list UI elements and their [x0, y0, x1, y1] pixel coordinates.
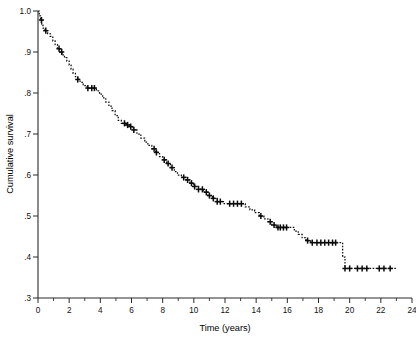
y-tick-label: .8 [24, 89, 31, 98]
censoring-marks [39, 17, 393, 272]
y-tick-label: .9 [24, 48, 31, 57]
y-axis-group: 1.0.9.8.7.6.5.4.3 Cumulative survival [5, 7, 38, 303]
y-axis-title: Cumulative survival [5, 114, 15, 194]
survival-chart-figure: 1.0.9.8.7.6.5.4.3 Cumulative survival 02… [0, 0, 416, 340]
x-tick-label: 22 [376, 306, 386, 315]
x-tick-label: 8 [160, 306, 165, 315]
x-tick-label: 4 [98, 306, 103, 315]
x-tick-label: 2 [67, 306, 72, 315]
x-tick-label: 20 [345, 306, 355, 315]
x-tick-label: 0 [36, 306, 41, 315]
kaplan-meier-plot: 1.0.9.8.7.6.5.4.3 Cumulative survival 02… [0, 0, 416, 340]
y-tick-label: .4 [24, 253, 31, 262]
y-axis-ticks: 1.0.9.8.7.6.5.4.3 [20, 7, 38, 303]
x-axis-title: Time (years) [199, 323, 250, 333]
x-tick-label: 16 [283, 306, 293, 315]
x-axis-group: 024681012141618202224 Time (years) [36, 298, 416, 333]
x-tick-label: 12 [220, 306, 230, 315]
x-tick-label: 10 [189, 306, 199, 315]
y-tick-label: .3 [24, 294, 31, 303]
x-tick-label: 6 [129, 306, 134, 315]
survival-step-line [38, 11, 396, 268]
y-tick-label: .6 [24, 171, 31, 180]
x-tick-label: 18 [314, 306, 324, 315]
x-tick-label: 24 [407, 306, 416, 315]
x-axis-ticks: 024681012141618202224 [36, 298, 416, 315]
y-tick-label: .5 [24, 212, 31, 221]
x-tick-label: 14 [252, 306, 262, 315]
y-tick-label: 1.0 [20, 7, 32, 16]
y-tick-label: .7 [24, 130, 31, 139]
survival-curve-group [38, 11, 396, 272]
